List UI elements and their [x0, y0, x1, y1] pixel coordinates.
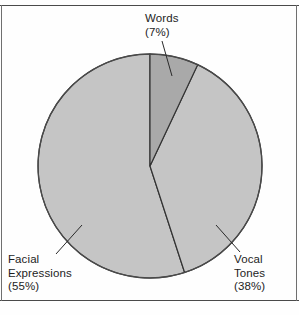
pie-chart-figure: Words (7%) Facial Expressions (55%) Voca… [0, 0, 299, 315]
pie-label-vocal-tones: Vocal Tones (38%) [234, 253, 265, 294]
pie-label-vocal-name-1: Vocal [234, 253, 265, 267]
pie-label-facial-name-2: Expressions [8, 267, 72, 281]
pie-label-words-name: Words [145, 12, 179, 26]
pie-label-vocal-name-2: Tones [234, 267, 265, 281]
pie-label-facial-percent: (55%) [8, 280, 72, 294]
pie-label-vocal-percent: (38%) [234, 280, 265, 294]
pie-label-words: Words (7%) [145, 12, 179, 39]
pie-label-facial-name-1: Facial [8, 253, 72, 267]
pie-label-facial-expressions: Facial Expressions (55%) [8, 253, 72, 294]
pie-label-words-percent: (7%) [145, 26, 179, 40]
